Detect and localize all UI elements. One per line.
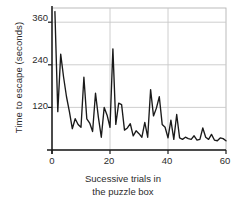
x-tick-label-20: 20 bbox=[97, 156, 121, 166]
y-tick-label-240: 240 bbox=[32, 55, 48, 65]
x-tick-label-60: 60 bbox=[213, 156, 237, 166]
x-axis-title-line1: Sucessive trials in bbox=[0, 172, 246, 185]
x-tick-label-0: 0 bbox=[40, 156, 64, 166]
y-tick-label-360: 360 bbox=[32, 13, 48, 23]
x-axis-title-line2: the puzzle box bbox=[0, 185, 246, 198]
chart-figure: Time to escape (seconds) 360 240 120 0 2… bbox=[0, 0, 246, 211]
plot-frame bbox=[52, 8, 226, 150]
x-tick-label-40: 40 bbox=[155, 156, 179, 166]
y-axis-tick-labels: 360 240 120 bbox=[18, 0, 48, 160]
y-tick-label-120: 120 bbox=[32, 101, 48, 111]
